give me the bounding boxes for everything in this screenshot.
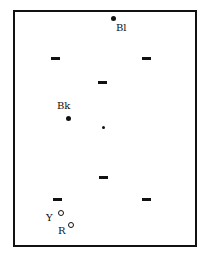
marker-dash	[98, 81, 107, 84]
black-ball	[66, 116, 71, 121]
marker-dash	[99, 176, 108, 179]
yellow-label: Y	[46, 213, 53, 223]
center-spot	[102, 126, 105, 129]
yellow-ball	[58, 210, 64, 216]
marker-dash	[53, 198, 62, 201]
marker-dash	[51, 57, 60, 60]
marker-dash	[142, 198, 151, 201]
black-label: Bk	[57, 101, 70, 111]
marker-dash	[142, 57, 151, 60]
blue-ball	[111, 16, 116, 21]
red-label: R	[58, 226, 66, 236]
table-border	[13, 10, 197, 247]
red-ball	[68, 222, 74, 228]
blue-label: Bl	[116, 23, 127, 33]
